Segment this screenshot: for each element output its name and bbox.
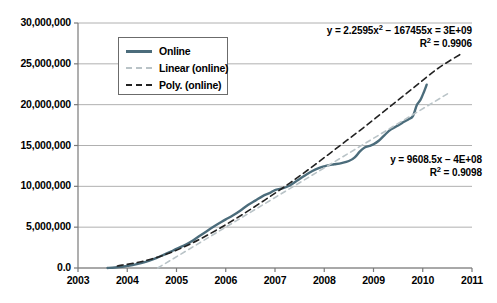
x-axis-tick-label: 2004	[107, 275, 147, 286]
legend-item-linear[interactable]: Linear (online)	[119, 59, 227, 76]
y-axis-tick-label: 30,000,000	[0, 17, 71, 28]
y-axis-tick-label: 20,000,000	[0, 99, 71, 110]
poly-equation-annotation: y = 2.2595x2 − 167455x = 3E+09 R2 = 0.99…	[292, 24, 472, 50]
poly-equation-prefix: y = 2.2595x	[327, 25, 379, 36]
linear-equation-line: y = 9608.5x − 4E+08	[340, 153, 482, 166]
y-axis-tick-label: 5,000,000	[0, 221, 71, 232]
y-axis-tick-label: 10,000,000	[0, 180, 71, 191]
linear-r-squared-line: R2 = 0.9098	[340, 166, 482, 179]
light-dashed-line-swatch	[126, 63, 152, 73]
poly-r-value: = 0.9906	[431, 38, 472, 49]
dark-dashed-line-swatch	[126, 80, 152, 90]
poly-equation-suffix: − 167455x = 3E+09	[383, 25, 472, 36]
linear-r-value: = 0.9098	[441, 167, 482, 178]
linear-r-prefix: R	[430, 167, 437, 178]
chart-legend: Online Linear (online) Poly. (online)	[118, 37, 228, 95]
y-axis-tick-label: 25,000,000	[0, 58, 71, 69]
legend-label-linear: Linear (online)	[159, 62, 228, 74]
x-axis-tick-label: 2007	[255, 275, 295, 286]
y-axis-tick-label: 0.0	[0, 262, 71, 273]
chart-container: 0.05,000,00010,000,00015,000,00020,000,0…	[0, 0, 497, 303]
legend-item-poly[interactable]: Poly. (online)	[119, 76, 227, 93]
solid-line-swatch	[126, 46, 152, 56]
x-axis-tick-label: 2008	[304, 275, 344, 286]
x-axis-tick-label: 2010	[403, 275, 443, 286]
poly-r-squared-line: R2 = 0.9906	[292, 37, 472, 50]
x-axis-tick-label: 2011	[452, 275, 492, 286]
trendline-linear	[158, 92, 450, 268]
x-axis-tick-label: 2006	[206, 275, 246, 286]
linear-equation-annotation: y = 9608.5x − 4E+08 R2 = 0.9098	[340, 153, 482, 179]
poly-r-prefix: R	[420, 38, 427, 49]
legend-label-online: Online	[159, 45, 190, 57]
y-axis-tick-label: 15,000,000	[0, 140, 71, 151]
legend-item-online[interactable]: Online	[119, 42, 227, 59]
x-axis-tick-label: 2005	[157, 275, 197, 286]
x-axis-tick-label: 2003	[58, 275, 98, 286]
x-axis-tick-label: 2009	[354, 275, 394, 286]
legend-label-poly: Poly. (online)	[159, 79, 221, 91]
poly-equation-line: y = 2.2595x2 − 167455x = 3E+09	[292, 24, 472, 37]
